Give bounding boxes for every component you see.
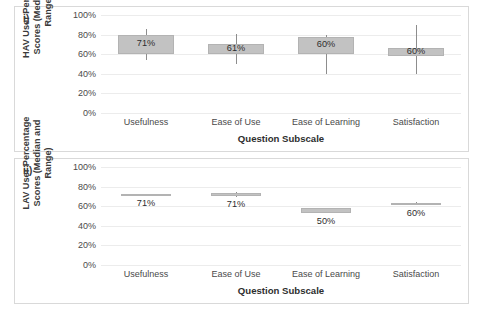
box-whisker-4: 60% <box>371 15 461 113</box>
y-axis-tick-label: 20% <box>50 240 96 250</box>
figure-boxplots: i)HAV User Percentage Scores (Median and… <box>0 0 481 312</box>
x-axis-tick-label: Usefulness <box>124 269 169 279</box>
box-whisker-2: 71% <box>191 167 281 265</box>
box-whisker-3: 60% <box>281 15 371 113</box>
chart-panel-1: i)HAV User Percentage Scores (Median and… <box>14 6 469 152</box>
data-label: 60% <box>317 39 335 49</box>
box-whisker-4: 60% <box>371 167 461 265</box>
chart-panel-2: ii)LAV User Percentage Scores (Median an… <box>14 158 469 304</box>
x-axis-title: Question Subscale <box>101 133 461 144</box>
box-body <box>211 193 261 196</box>
data-label: 71% <box>137 198 155 208</box>
y-axis-tick-label: 40% <box>50 221 96 231</box>
box-whisker-1: 71% <box>101 167 191 265</box>
data-label: 60% <box>407 208 425 218</box>
data-label: 60% <box>407 46 425 56</box>
box-body <box>391 203 441 205</box>
x-axis-tick-label: Usefulness <box>124 117 169 127</box>
x-axis-tick-label: Satisfaction <box>393 117 440 127</box>
x-axis-tick-label: Ease of Use <box>211 117 260 127</box>
data-label: 71% <box>137 38 155 48</box>
box-whisker-3: 50% <box>281 167 371 265</box>
y-axis-tick-label: 80% <box>50 30 96 40</box>
gridline <box>101 113 461 114</box>
x-axis-tick-label: Ease of Learning <box>292 117 360 127</box>
y-axis-tick-label: 40% <box>50 69 96 79</box>
box-whisker-2: 61% <box>191 15 281 113</box>
y-axis-tick-label: 80% <box>50 182 96 192</box>
x-axis-labels: UsefulnessEase of UseEase of LearningSat… <box>101 269 461 283</box>
box-body <box>121 194 171 196</box>
data-label: 50% <box>317 216 335 226</box>
y-axis-tick-label: 60% <box>50 201 96 211</box>
plot-area: 0%20%40%60%80%100%71%71%50%60% <box>101 167 461 265</box>
box-body <box>301 208 351 213</box>
x-axis-tick-label: Satisfaction <box>393 269 440 279</box>
y-axis-tick-label: 0% <box>50 260 96 270</box>
x-axis-labels: UsefulnessEase of UseEase of LearningSat… <box>101 117 461 131</box>
x-axis-title: Question Subscale <box>101 285 461 296</box>
x-axis-tick-label: Ease of Use <box>211 269 260 279</box>
data-label: 71% <box>227 199 245 209</box>
y-axis-tick-label: 60% <box>50 49 96 59</box>
plot-area: 0%20%40%60%80%100%71%61%60%60% <box>101 15 461 113</box>
data-label: 61% <box>227 43 245 53</box>
box-whisker-1: 71% <box>101 15 191 113</box>
y-axis-tick-label: 20% <box>50 88 96 98</box>
y-axis-tick-label: 100% <box>50 162 96 172</box>
gridline <box>101 265 461 266</box>
y-axis-tick-label: 100% <box>50 10 96 20</box>
x-axis-tick-label: Ease of Learning <box>292 269 360 279</box>
